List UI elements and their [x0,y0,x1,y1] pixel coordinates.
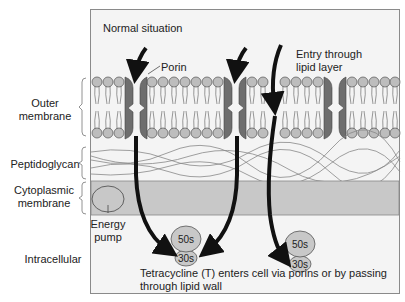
ribosome-1-small: 30s [178,253,194,264]
energy-pump-label-line1: Energy [91,218,126,230]
energy-pump-label-line2: pump [94,231,122,243]
ribosome-2-large: 50s [292,239,308,250]
diagram-canvas: Normal situation Porin Entry through lip… [0,0,405,302]
layer-brackets [79,78,86,214]
caption-line2: through lipid wall [140,280,222,292]
entry-label-line2: lipid layer [296,61,343,73]
entry-label-line1: Entry through [296,48,362,60]
title: Normal situation [103,22,182,34]
caption-line1: Tetracycline (T) enters cell via porins … [140,267,387,279]
ribosome-1-large: 50s [178,234,194,245]
porin-label: Porin [161,61,187,73]
